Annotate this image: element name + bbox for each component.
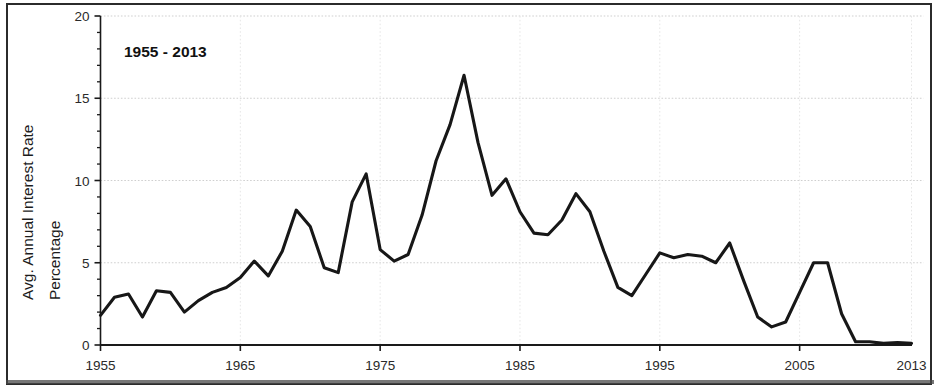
y-tick-label-10: 10	[74, 174, 89, 189]
y-axis-tick-marks	[95, 16, 101, 345]
y-axis-label-line-2: Percentage	[46, 221, 63, 300]
data-series-line	[101, 75, 912, 343]
x-tick-label-1975: 1975	[365, 358, 395, 373]
x-tick-label-1965: 1965	[225, 358, 255, 373]
y-tick-label-5: 5	[82, 256, 90, 271]
x-tick-label-2005: 2005	[785, 358, 815, 373]
y-tick-label-0: 0	[82, 338, 90, 353]
y-axis-tick-labels: 05101520	[74, 9, 89, 353]
interest-rate-line-chart: 05101520 1955196519751985199520052013 Av…	[0, 0, 938, 392]
y-axis-label-line-1: Avg. Annual Interest Rate	[19, 125, 36, 301]
x-tick-label-1955: 1955	[85, 358, 115, 373]
x-tick-label-2013: 2013	[896, 358, 926, 373]
x-tick-label-1995: 1995	[645, 358, 675, 373]
x-tick-label-1985: 1985	[505, 358, 535, 373]
y-tick-label-20: 20	[74, 9, 89, 24]
chart-figure: 05101520 1955196519751985199520052013 Av…	[0, 0, 938, 392]
x-axis-tick-labels: 1955196519751985199520052013	[85, 358, 926, 373]
vertical-gridlines	[240, 16, 911, 345]
y-tick-label-15: 15	[74, 91, 89, 106]
chart-title: 1955 - 2013	[124, 43, 207, 60]
